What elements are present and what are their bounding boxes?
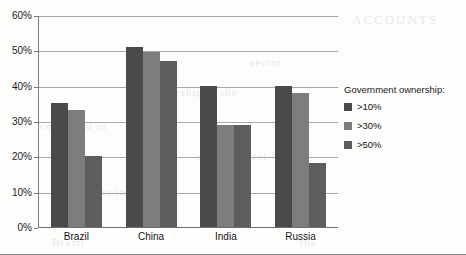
bar [126, 47, 143, 227]
y-axis-tick-mark [34, 228, 38, 229]
bar-group [263, 16, 338, 227]
legend-item-label: >10% [357, 101, 382, 112]
y-axis-tick-mark [34, 51, 38, 52]
legend-swatch-icon [344, 103, 352, 111]
bar [309, 163, 326, 227]
y-axis-tick-mark [34, 16, 38, 17]
chart-screenshot: ACCOUNTS ownership in the continued to o… [0, 0, 466, 255]
y-axis-tick-labels: 0%10%20%30%40%50%60% [0, 16, 32, 228]
legend-item-label: >50% [357, 139, 382, 150]
bar [160, 61, 177, 227]
x-axis-category-label: China [114, 231, 189, 242]
x-axis-category-label: India [189, 231, 264, 242]
y-axis-tick-label: 0% [18, 223, 32, 233]
bar [275, 86, 292, 227]
bar [85, 156, 102, 227]
y-axis-tick-label: 10% [12, 188, 32, 198]
legend-item[interactable]: >30% [344, 120, 462, 131]
bar [143, 52, 160, 227]
legend-item[interactable]: >10% [344, 101, 462, 112]
x-axis-category-label: Brazil [39, 231, 114, 242]
bar [217, 125, 234, 227]
x-axis-category-label: Russia [263, 231, 338, 242]
bar [51, 103, 68, 227]
y-axis-tick-label: 50% [12, 46, 32, 56]
bar-group [39, 16, 114, 227]
bar [200, 86, 217, 227]
y-axis-tick-mark [34, 122, 38, 123]
y-axis-tick-label: 40% [12, 82, 32, 92]
y-axis-tick-label: 20% [12, 152, 32, 162]
bar-group [189, 16, 264, 227]
legend-item-label: >30% [357, 120, 382, 131]
plot-area [38, 16, 338, 228]
y-axis-tick-label: 60% [12, 11, 32, 21]
x-axis-category-labels: BrazilChinaIndiaRussia [39, 231, 338, 242]
scan-artifact-text: ACCOUNTS [352, 12, 438, 28]
bar-groups [39, 16, 338, 227]
y-axis-tick-mark [34, 87, 38, 88]
chart-legend: Government ownership: >10%>30%>50% [344, 84, 462, 158]
bar [68, 110, 85, 227]
y-axis-tick-label: 30% [12, 117, 32, 127]
x-axis-line [38, 227, 338, 228]
legend-swatch-icon [344, 141, 352, 149]
bar [292, 93, 309, 227]
bar [234, 125, 251, 227]
legend-title: Government ownership: [344, 84, 462, 95]
y-axis-tick-mark [34, 193, 38, 194]
legend-swatch-icon [344, 122, 352, 130]
y-axis-tick-mark [34, 157, 38, 158]
legend-item[interactable]: >50% [344, 139, 462, 150]
legend-items: >10%>30%>50% [344, 101, 462, 150]
bar-group [114, 16, 189, 227]
